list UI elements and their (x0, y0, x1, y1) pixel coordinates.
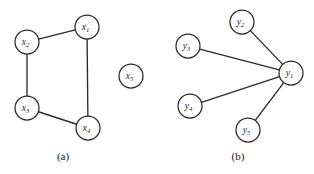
graph-node-y4[interactable]: y4 (178, 94, 202, 118)
node-label-subscript-y3: 3 (186, 45, 191, 52)
panel-caption-panel-b: (b) (232, 150, 245, 163)
graph-node-x5[interactable]: x5 (119, 64, 143, 88)
graph-node-x4[interactable]: x4 (76, 116, 100, 140)
node-label-subscript-x1: 1 (86, 26, 89, 33)
graph-node-y1[interactable]: y1 (279, 61, 303, 85)
node-label-subscript-x3: 3 (25, 107, 30, 114)
graph-figure-svg: x1x2x3x4x5y1y2y3y4y5 (a)(b) (0, 0, 314, 174)
graph-node-y2[interactable]: y2 (230, 10, 254, 34)
graph-node-x3[interactable]: x3 (15, 96, 39, 120)
graph-edge-y1-y4 (201, 77, 279, 103)
graph-edge-x1-x2 (39, 30, 76, 39)
graph-node-y5[interactable]: y5 (236, 118, 260, 142)
node-label-subscript-y1: 1 (290, 72, 293, 79)
graph-node-y3[interactable]: y3 (176, 34, 200, 58)
graph-edge-x4-x1 (87, 39, 88, 116)
edges-layer (27, 30, 284, 124)
graph-edge-y1-y5 (255, 83, 284, 121)
panel-caption-panel-a: (a) (57, 150, 70, 163)
nodes-layer: x1x2x3x4x5y1y2y3y4y5 (15, 10, 303, 142)
figure-container: x1x2x3x4x5y1y2y3y4y5 (a)(b) (0, 0, 314, 174)
graph-edge-y1-y2 (250, 31, 282, 65)
graph-node-x1[interactable]: x1 (75, 15, 99, 39)
graph-edge-x3-x4 (38, 112, 76, 125)
graph-node-x2[interactable]: x2 (15, 30, 39, 54)
captions-layer: (a)(b) (57, 150, 245, 163)
graph-edge-y1-y3 (200, 49, 280, 70)
